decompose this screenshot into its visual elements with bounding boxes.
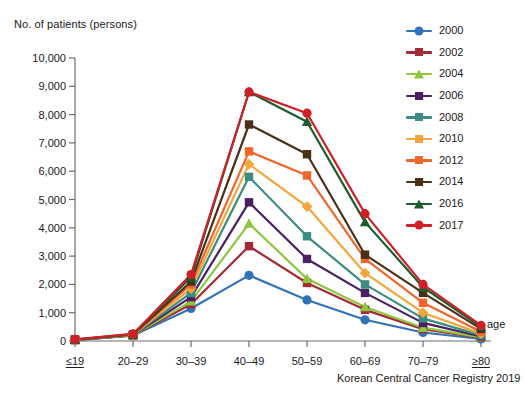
legend-label: 2012 (439, 155, 463, 166)
legend-swatch-2014 (406, 175, 432, 189)
x-tick-label: ≥80 (472, 355, 490, 367)
legend-marker-square-icon (415, 156, 423, 164)
legend-marker-square-icon (415, 48, 423, 56)
legend-item-2016[interactable]: 2016 (406, 193, 518, 215)
data-point-2008-40–49 (245, 173, 253, 181)
legend-swatch-2012 (406, 153, 432, 167)
x-tick-label: 20–29 (118, 355, 149, 367)
legend-item-2012[interactable]: 2012 (406, 150, 518, 172)
data-point-2000-60–69 (360, 315, 369, 324)
legend-label: 2004 (439, 68, 463, 79)
y-tick-label: 4,000 (8, 222, 66, 234)
legend-item-2006[interactable]: 2006 (406, 85, 518, 107)
data-point-2012-40–49 (245, 147, 253, 155)
data-point-2014-60–69 (361, 250, 369, 258)
legend-swatch-2010 (406, 132, 432, 146)
legend-marker-triangle-icon (414, 69, 424, 78)
legend-label: 2000 (439, 25, 463, 36)
y-tick-label: 6,000 (8, 165, 66, 177)
legend-marker-square-icon (415, 92, 423, 100)
y-tick-label: 7,000 (8, 137, 66, 149)
y-tick-label: 1,000 (8, 307, 66, 319)
data-point-2012-70–79 (419, 299, 427, 307)
y-tick-label: 9,000 (8, 80, 66, 92)
legend-swatch-2000 (406, 24, 432, 38)
legend-swatch-2006 (406, 89, 432, 103)
legend-marker-diamond-icon (415, 135, 423, 143)
legend-marker-square-icon (415, 113, 423, 121)
data-point-2017-60–69 (360, 209, 369, 218)
data-point-2000-40–49 (244, 271, 253, 280)
legend-label: 2008 (439, 112, 463, 123)
x-tick-label: 40–49 (234, 355, 265, 367)
legend-label: 2017 (439, 220, 463, 231)
data-point-2017-30–39 (186, 270, 195, 279)
legend-marker-triangle-icon (414, 199, 424, 208)
data-point-2014-40–49 (245, 120, 253, 128)
legend-swatch-2004 (406, 67, 432, 81)
legend-item-2004[interactable]: 2004 (406, 63, 518, 85)
x-tick-label: 60–69 (350, 355, 381, 367)
legend-label: 2010 (439, 133, 463, 144)
data-point-2017-70–79 (418, 280, 427, 289)
legend-swatch-2008 (406, 110, 432, 124)
x-tick-label: 30–39 (176, 355, 207, 367)
legend-item-2002[interactable]: 2002 (406, 42, 518, 64)
y-tick-label: 5,000 (8, 194, 66, 206)
data-point-2000-50–59 (302, 295, 311, 304)
data-point-2006-50–59 (303, 255, 311, 263)
legend: 2000200220042006200820102012201420162017 (406, 20, 518, 236)
data-point-2017-20–29 (128, 329, 137, 338)
legend-label: 2016 (439, 198, 463, 209)
legend-item-2014[interactable]: 2014 (406, 171, 518, 193)
data-point-2008-50–59 (303, 232, 311, 240)
data-point-2006-60–69 (361, 289, 369, 297)
x-tick-label: 70–79 (408, 355, 439, 367)
legend-marker-circle-icon (415, 26, 424, 35)
legend-label: 2014 (439, 176, 463, 187)
data-point-2017-≤19 (70, 335, 79, 344)
legend-item-2000[interactable]: 2000 (406, 20, 518, 42)
legend-label: 2002 (439, 47, 463, 58)
x-tick-label: ≤19 (66, 355, 84, 367)
y-tick-label: 0 (8, 335, 66, 347)
y-tick-label: 2,000 (8, 278, 66, 290)
data-point-2012-50–59 (303, 171, 311, 179)
legend-marker-circle-icon (415, 221, 424, 230)
chart-container: No. of patients (persons) age Korean Cen… (0, 0, 524, 403)
y-tick-label: 3,000 (8, 250, 66, 262)
legend-item-2008[interactable]: 2008 (406, 106, 518, 128)
data-point-2017-40–49 (244, 87, 253, 96)
legend-swatch-2002 (406, 45, 432, 59)
legend-item-2010[interactable]: 2010 (406, 128, 518, 150)
legend-swatch-2016 (406, 197, 432, 211)
y-tick-label: 8,000 (8, 109, 66, 121)
data-point-2017-≥80 (476, 321, 485, 330)
data-point-2014-50–59 (303, 150, 311, 158)
data-point-2008-60–69 (361, 280, 369, 288)
legend-swatch-2017 (406, 218, 432, 232)
data-point-2004-40–49 (244, 218, 254, 227)
data-point-2002-40–49 (245, 242, 253, 250)
y-tick-label: 10,000 (8, 52, 66, 64)
data-point-2006-40–49 (245, 198, 253, 206)
legend-item-2017[interactable]: 2017 (406, 214, 518, 236)
data-point-2017-50–59 (302, 109, 311, 118)
legend-label: 2006 (439, 90, 463, 101)
x-tick-label: 50–59 (292, 355, 323, 367)
legend-marker-square-icon (415, 178, 423, 186)
